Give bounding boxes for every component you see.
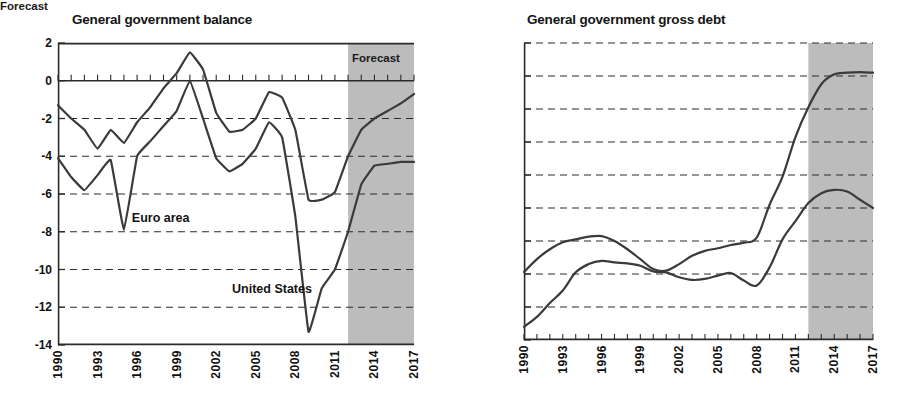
x-tick-label: 2017 [866,345,880,374]
plot-svg-right [524,43,873,340]
y-tick-label: -8 [41,226,52,238]
y-tick-label: -2 [41,113,52,125]
plot-area-left [58,43,414,345]
x-tick-label: 2008 [288,350,302,379]
x-tick-label: 2002 [209,350,223,379]
series-label-united-states-left: United States [232,282,312,296]
chart-panel-government-balance: General government balance 20-2-4-6-8-10… [0,0,452,400]
x-tick-label: 2017 [407,350,421,379]
x-tick-label: 1999 [170,350,184,379]
x-tick-label: 1996 [130,350,144,379]
chart-title-right: General government gross debt [527,12,725,27]
x-tick-label: 2014 [367,350,381,379]
x-axis-labels-right: 1990199319961999200220052008201120142017 [524,345,873,400]
chart-panel-government-gross-debt: General government gross debt 1990199319… [452,0,905,400]
x-axis-labels-left: 1990199319961999200220052008201120142017 [58,350,414,400]
twin-chart-figure: General government balance 20-2-4-6-8-10… [0,0,905,400]
x-tick-label: 1990 [517,345,531,374]
forecast-label-left: Forecast [352,52,400,64]
y-axis-labels-left: 20-2-4-6-8-10-12-14 [16,43,52,345]
y-tick-label: 2 [45,37,52,49]
x-tick-label: 1999 [633,345,647,374]
forecast-label-right: Forecast [0,0,48,12]
x-tick-label: 1993 [556,345,570,374]
x-tick-label: 2005 [249,350,263,379]
plot-svg-left [58,43,414,345]
y-tick-label: -14 [35,339,52,351]
series-label-euro-area-left: Euro area [132,211,190,225]
y-tick-label: -12 [35,301,52,313]
x-tick-label: 2002 [672,345,686,374]
x-tick-label: 1993 [91,350,105,379]
x-tick-label: 2008 [750,345,764,374]
x-tick-label: 2011 [788,345,802,373]
x-tick-label: 2005 [711,345,725,374]
x-tick-label: 1990 [51,350,65,379]
y-tick-label: -4 [41,150,52,162]
x-tick-label: 2014 [827,345,841,374]
plot-area-right [524,43,873,340]
x-tick-label: 2011 [328,350,342,378]
y-tick-label: -6 [41,188,52,200]
chart-title-left: General government balance [72,12,252,27]
y-tick-label: 0 [45,75,52,87]
y-tick-label: -10 [35,264,52,276]
x-tick-label: 1996 [595,345,609,374]
